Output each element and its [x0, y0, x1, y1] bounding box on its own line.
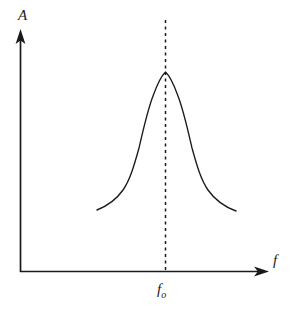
- y-axis-label-amplitude: A: [18, 8, 27, 23]
- resonant-frequency-label: fo: [157, 282, 166, 300]
- resonant-frequency-subscript: o: [161, 289, 166, 300]
- resonance-curve-path: [97, 72, 236, 211]
- x-axis-label-frequency: f: [273, 253, 277, 268]
- resonance-plot-canvas: [0, 0, 293, 313]
- resonance-curve-figure: A f fo: [0, 0, 293, 313]
- x-axis: [20, 266, 269, 276]
- y-axis: [16, 29, 26, 272]
